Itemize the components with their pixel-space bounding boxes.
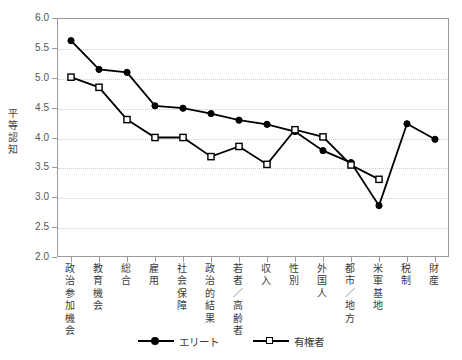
data-point-marker-filled-circle xyxy=(404,121,410,127)
data-point-marker-filled-circle xyxy=(264,121,270,127)
x-tick-label-10: 都市／地方 xyxy=(345,263,358,325)
x-tick-label-7: 収入 xyxy=(261,263,274,288)
x-tick-mark xyxy=(351,257,352,262)
legend-label-elite: エリート xyxy=(179,334,219,349)
series-voter xyxy=(68,74,382,182)
data-point-marker-filled-circle xyxy=(180,105,186,111)
legend-item-voter: 有権者 xyxy=(253,334,324,349)
x-tick-mark xyxy=(295,257,296,262)
x-tick-mark xyxy=(267,257,268,262)
data-point-marker-open-square xyxy=(208,154,214,160)
data-point-marker-filled-circle xyxy=(68,38,74,44)
data-point-marker-open-square xyxy=(292,127,298,133)
legend-label-voter: 有権者 xyxy=(294,334,324,349)
x-tick-mark xyxy=(99,257,100,262)
data-point-marker-filled-circle xyxy=(320,148,326,154)
series-line xyxy=(71,77,379,179)
x-tick-mark xyxy=(211,257,212,262)
legend-item-elite: エリート xyxy=(138,334,219,349)
legend-marker-open-square-icon xyxy=(253,335,289,347)
x-tick-label-2: 総合 xyxy=(121,263,134,288)
data-point-marker-open-square xyxy=(180,134,186,140)
data-point-marker-filled-circle xyxy=(432,136,438,142)
x-tick-label-0: 政治参加機会 xyxy=(65,263,78,337)
data-point-marker-open-square xyxy=(376,176,382,182)
x-tick-label-4: 社会保障 xyxy=(177,263,190,313)
data-point-marker-filled-circle xyxy=(376,203,382,209)
data-point-marker-open-square xyxy=(264,161,270,167)
x-tick-mark xyxy=(183,257,184,262)
x-tick-mark xyxy=(407,257,408,262)
legend-marker-filled-circle-icon xyxy=(138,335,174,347)
data-point-marker-open-square xyxy=(348,162,354,168)
x-tick-label-1: 教育機会 xyxy=(93,263,106,313)
x-tick-mark xyxy=(323,257,324,262)
x-tick-mark xyxy=(239,257,240,262)
x-tick-mark xyxy=(71,257,72,262)
data-point-marker-open-square xyxy=(96,84,102,90)
x-tick-label-12: 税制 xyxy=(401,263,414,288)
x-tick-label-3: 雇用 xyxy=(149,263,162,288)
data-point-marker-open-square xyxy=(236,143,242,149)
chart-container: 平 等 認 知 2.02.53.03.54.04.55.05.56.0 政治参加… xyxy=(0,0,462,360)
x-tick-label-11: 米軍基地 xyxy=(373,263,386,313)
x-tick-mark xyxy=(127,257,128,262)
x-tick-mark xyxy=(155,257,156,262)
x-tick-label-5: 政治的結果 xyxy=(205,263,218,325)
x-tick-mark xyxy=(379,257,380,262)
data-point-marker-filled-circle xyxy=(124,69,130,75)
data-point-marker-open-square xyxy=(124,116,130,122)
x-tick-label-13: 財産 xyxy=(429,263,442,288)
data-point-marker-filled-circle xyxy=(96,66,102,72)
x-tick-label-8: 性別 xyxy=(289,263,302,288)
data-point-marker-filled-circle xyxy=(236,117,242,123)
data-point-marker-open-square xyxy=(68,74,74,80)
x-tick-label-6: 若者／高齢者 xyxy=(233,263,246,337)
x-tick-mark xyxy=(435,257,436,262)
data-point-marker-open-square xyxy=(320,134,326,140)
x-tick-label-9: 外国人 xyxy=(317,263,330,300)
data-point-marker-filled-circle xyxy=(208,111,214,117)
chart-legend: エリート 有権者 xyxy=(0,330,462,352)
data-point-marker-filled-circle xyxy=(152,103,158,109)
data-point-marker-open-square xyxy=(152,134,158,140)
